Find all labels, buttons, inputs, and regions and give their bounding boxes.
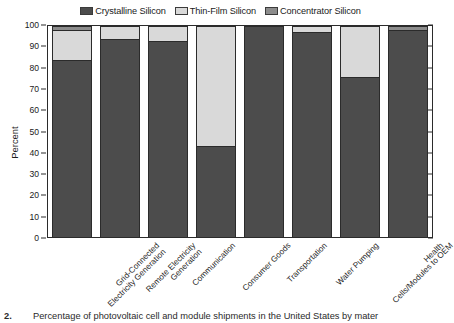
y-axis-tick-label: 100 [25, 21, 39, 30]
y-axis-tick-mark [41, 88, 46, 89]
y-axis-title: Percent [9, 103, 20, 183]
y-axis-tick-mark-right [428, 152, 433, 153]
stacked-bar[interactable] [196, 26, 236, 237]
y-axis-tick-mark-right [428, 46, 433, 47]
legend-label-crystalline-silicon: Crystalline Silicon [95, 6, 166, 16]
stacked-bar[interactable] [340, 26, 380, 237]
bar-segment[interactable] [389, 30, 427, 237]
bar-segment[interactable] [245, 26, 283, 237]
y-axis-tick-mark-right [428, 216, 433, 217]
y-axis-tick-mark [41, 110, 46, 111]
figure-caption-number: 2. [4, 310, 12, 322]
stacked-bar[interactable] [388, 26, 428, 237]
x-axis-tick-label: Water Pumping [335, 241, 381, 287]
y-axis-tick-label: 80 [29, 63, 39, 72]
y-axis-tick-mark-right [428, 25, 433, 26]
bar-segment[interactable] [101, 26, 139, 39]
x-axis-tick-label: Consumer Goods [241, 241, 293, 293]
stacked-bar[interactable] [244, 26, 284, 237]
bar-column[interactable] [148, 26, 188, 237]
y-axis-tick-mark-right [428, 195, 433, 196]
bar-column[interactable] [196, 26, 236, 237]
bar-segment[interactable] [341, 77, 379, 237]
bar-segment[interactable] [341, 26, 379, 77]
bar-segment[interactable] [197, 26, 235, 146]
bar-column[interactable] [244, 26, 284, 237]
legend-swatch-concentrator-silicon [265, 7, 278, 15]
bar-segment[interactable] [149, 26, 187, 41]
y-axis-tick-mark-right [428, 174, 433, 175]
y-axis-tick-label: 60 [29, 106, 39, 115]
y-axis-tick-mark [41, 174, 46, 175]
y-axis-tick-label: 70 [29, 85, 39, 94]
y-axis-tick-mark [41, 46, 46, 47]
y-axis-tick-mark-right [428, 238, 433, 239]
bar-column[interactable] [340, 26, 380, 237]
stacked-bar[interactable] [100, 26, 140, 237]
plot-area [47, 25, 433, 238]
y-axis-tick-mark-right [428, 110, 433, 111]
x-axis-tick-label: Cells/Modules to OEM [390, 241, 454, 305]
bar-column[interactable] [52, 26, 92, 237]
bar-group [48, 26, 432, 237]
legend-label-concentrator-silicon: Concentrator Silicon [280, 6, 361, 16]
y-axis-tick-mark [41, 152, 46, 153]
chart-legend: Crystalline Silicon Thin-Film Silicon Co… [0, 6, 441, 16]
legend-entry-crystalline-silicon[interactable]: Crystalline Silicon [80, 6, 166, 16]
y-axis-tick-mark-right [428, 88, 433, 89]
y-axis-tick-mark-right [428, 67, 433, 68]
bar-segment[interactable] [149, 41, 187, 237]
bar-segment[interactable] [197, 146, 235, 237]
bar-column[interactable] [292, 26, 332, 237]
y-axis-tick-label: 10 [29, 212, 39, 221]
legend-swatch-crystalline-silicon [80, 7, 93, 15]
y-axis-tick-mark [41, 195, 46, 196]
y-axis: Percent 0102030405060708090100 [0, 25, 47, 238]
y-axis-tick-mark [41, 238, 46, 239]
stacked-bar[interactable] [292, 26, 332, 237]
stacked-bar[interactable] [148, 26, 188, 237]
y-axis-tick-label: 50 [29, 127, 39, 136]
y-axis-tick-label: 0 [34, 234, 39, 243]
legend-swatch-thin-film-silicon [175, 7, 188, 15]
bar-column[interactable] [388, 26, 428, 237]
bar-segment[interactable] [53, 60, 91, 237]
y-axis-tick-label: 30 [29, 170, 39, 179]
y-axis-tick-label: 40 [29, 149, 39, 158]
y-axis-tick-mark [41, 67, 46, 68]
y-axis-tick-label: 20 [29, 191, 39, 200]
y-axis-tick-mark [41, 216, 46, 217]
bar-segment[interactable] [101, 39, 139, 237]
bar-column[interactable] [100, 26, 140, 237]
y-axis-tick-label: 90 [29, 42, 39, 51]
figure-caption-text: Percentage of photovoltaic cell and modu… [33, 310, 378, 322]
bar-segment[interactable] [293, 32, 331, 237]
x-axis-labels: Grid-ConnectedElectricity GenerationRemo… [47, 239, 433, 303]
legend-label-thin-film-silicon: Thin-Film Silicon [190, 6, 256, 16]
y-axis-tick-mark [41, 25, 46, 26]
figure-caption: 2. Percentage of photovoltaic cell and m… [0, 310, 441, 323]
stacked-bar[interactable] [52, 26, 92, 237]
y-axis-tick-mark-right [428, 131, 433, 132]
legend-entry-concentrator-silicon[interactable]: Concentrator Silicon [265, 6, 361, 16]
y-axis-tick-mark [41, 131, 46, 132]
legend-entry-thin-film-silicon[interactable]: Thin-Film Silicon [175, 6, 256, 16]
bar-segment[interactable] [53, 30, 91, 60]
